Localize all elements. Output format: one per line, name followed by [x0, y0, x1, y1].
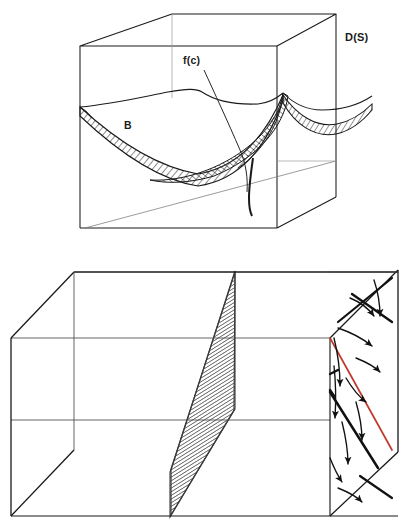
flow-stroke — [11, 464, 60, 490]
surface-rim-left — [80, 89, 283, 107]
top-panel: D(S) f(c) B — [0, 0, 412, 262]
curve-c-tail — [249, 158, 253, 216]
bottom-panel — [0, 262, 412, 532]
label-b: B — [124, 119, 132, 131]
branched-saddle-surface — [80, 89, 372, 186]
cube-top-face — [80, 14, 336, 46]
cube-edge-bottom-right — [277, 197, 336, 228]
flow-arrow — [14, 448, 25, 478]
figure-root: D(S) f(c) B — [0, 0, 412, 532]
label-fc: f(c) — [183, 54, 200, 66]
hatched-band-left — [80, 95, 283, 186]
label-ds: D(S) — [345, 31, 369, 43]
left-face — [11, 272, 74, 484]
surface-rim-right — [283, 93, 372, 110]
hatched-band-right — [283, 95, 372, 135]
box-edge-left-bottom-diag — [11, 450, 74, 516]
